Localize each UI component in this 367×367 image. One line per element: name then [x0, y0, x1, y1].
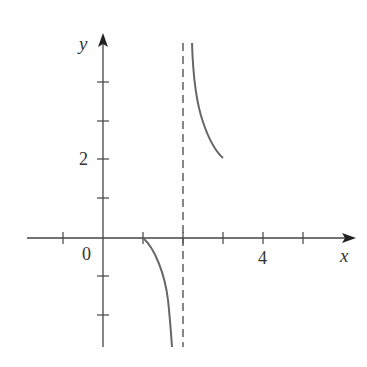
- x-tick-label-4: 4: [258, 248, 267, 268]
- curve-left-branch: [143, 238, 172, 347]
- y-axis-label: y: [77, 33, 88, 54]
- curve-right-branch: [192, 43, 223, 158]
- x-axis-label: x: [339, 245, 349, 266]
- origin-label: 0: [82, 244, 91, 264]
- graph: y x 0 2 4: [0, 0, 367, 367]
- y-tick-label-2: 2: [79, 149, 88, 169]
